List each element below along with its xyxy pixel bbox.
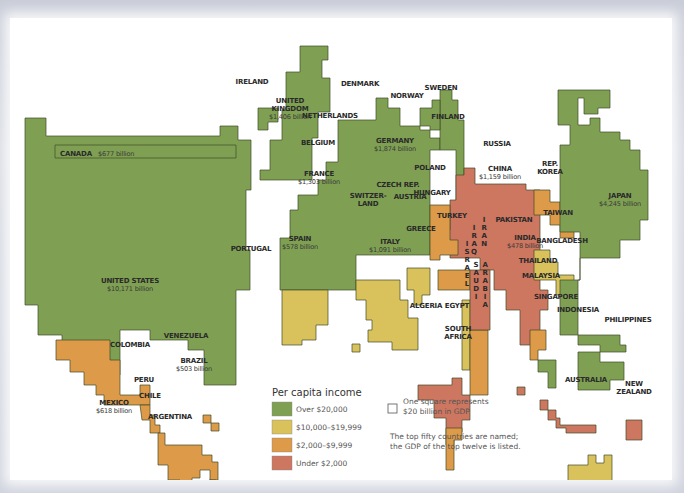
- country-label-iran-letter: A: [481, 232, 487, 240]
- region-italy-island[interactable]: [352, 344, 360, 352]
- country-label-belgium: BELGIUM: [301, 139, 335, 147]
- legend-title: Per capita income: [272, 387, 362, 398]
- country-label-finland: FINLAND: [431, 113, 465, 121]
- legend: Per capita income Over $20,000$10,000–$1…: [272, 387, 521, 470]
- legend-label-high: Over $20,000: [296, 405, 348, 414]
- legend-label-low: Under $2,000: [296, 459, 348, 468]
- country-label-switzerland: SWITZER-: [350, 192, 387, 200]
- country-label-iraq-letter: A: [471, 240, 477, 248]
- region-iberia[interactable]: [282, 290, 328, 345]
- gdp-label-china: $1,159 billion: [479, 173, 521, 181]
- country-label-israel-letter: E: [465, 272, 470, 280]
- gdp-label-spain: $578 billion: [282, 243, 318, 251]
- country-label-russia: RUSSIA: [483, 140, 511, 148]
- country-label-malaysia: MALAYSIA: [522, 272, 561, 280]
- region-south-america[interactable]: [158, 433, 218, 480]
- gdp-label-italy: $1,091 billion: [369, 246, 411, 254]
- cartogram-map: CANADA$677 billionUNITED STATES$10,171 b…: [10, 18, 672, 480]
- country-label-thailand: THAILAND: [519, 257, 558, 265]
- country-label-france: FRANCE: [304, 170, 335, 178]
- country-label-united-states: UNITED STATES: [101, 277, 159, 285]
- footnote-line1: The top fifty countries are named;: [389, 432, 518, 441]
- country-label-italy: ITALY: [380, 238, 401, 246]
- country-label-new-zealand: NEW: [625, 380, 643, 388]
- map-page: CANADA$677 billionUNITED STATES$10,171 b…: [10, 18, 672, 480]
- country-label-china: CHINA: [488, 165, 513, 173]
- country-label-denmark: DENMARK: [341, 80, 380, 88]
- country-label-poland: POLAND: [414, 164, 446, 172]
- region-greece[interactable]: [407, 268, 430, 305]
- gdp-label-france: $1,303 billion: [298, 178, 340, 186]
- legend-swatch-high: [272, 402, 292, 416]
- region-australia[interactable]: [568, 455, 612, 480]
- country-label-saudi-arabia-letter: R: [482, 269, 488, 277]
- country-label-netherlands: NETHERLANDS: [302, 112, 358, 120]
- footnote-line2: the GDP of the top twelve is listed.: [390, 442, 521, 451]
- gdp-label-mexico: $618 billion: [96, 407, 132, 415]
- region-singapore[interactable]: [538, 360, 556, 388]
- region-italy[interactable]: [356, 280, 418, 350]
- country-label-venezuela: VENEZUELA: [164, 332, 209, 340]
- country-label-saudi-arabia-letter: A: [482, 277, 488, 285]
- region-saudi-arabia[interactable]: [470, 330, 488, 395]
- region-mexico[interactable]: [56, 340, 150, 405]
- country-label-pakistan: PAKISTAN: [496, 216, 533, 224]
- country-label-mexico: MEXICO: [99, 399, 129, 407]
- legend-swatch-low: [272, 456, 292, 470]
- region-philippines[interactable]: [626, 420, 642, 440]
- country-label-argentina: ARGENTINA: [148, 413, 193, 421]
- gdp-label-japan: $4,245 billion: [599, 200, 641, 208]
- country-label-united-kingdom: UNITED: [276, 97, 305, 105]
- country-label-south-africa: AFRICA: [444, 333, 472, 341]
- country-label-turkey: TURKEY: [437, 212, 468, 220]
- country-label-philippines: PHILIPPINES: [604, 316, 651, 324]
- country-label-israel-letter: A: [464, 264, 470, 272]
- country-label-iraq-letter: R: [471, 232, 477, 240]
- country-label-germany: GERMANY: [376, 137, 415, 145]
- country-label-sweden: SWEDEN: [425, 84, 458, 92]
- country-label-indonesia: INDONESIA: [557, 306, 600, 314]
- region-new-guinea-green[interactable]: [578, 352, 624, 390]
- country-label-saudi-arabia-letter: A: [482, 301, 488, 309]
- country-label-taiwan: TAIWAN: [543, 209, 573, 217]
- country-label-czech-rep: CZECH REP.: [376, 181, 419, 189]
- country-label-iran-letter: I: [483, 216, 485, 224]
- country-label-saudi-arabia-letter: I: [475, 293, 477, 301]
- region-island-sa-1[interactable]: [203, 415, 211, 423]
- country-label-algeria: ALGERIA: [410, 302, 443, 310]
- country-label-iran-letter: N: [481, 240, 487, 248]
- region-indonesia[interactable]: [540, 400, 596, 433]
- country-label-israel-letter: L: [465, 280, 470, 288]
- region-island-sa-2[interactable]: [211, 423, 219, 431]
- region-thailand-malaysia[interactable]: [530, 330, 546, 360]
- country-label-israel-letter: S: [465, 248, 470, 256]
- country-label-australia: AUSTRALIA: [565, 376, 608, 384]
- legend-swatch-uppermid: [272, 420, 292, 434]
- country-label-portugal: PORTUGAL: [231, 245, 272, 253]
- country-label-bangladesh: BANGLADESH: [536, 237, 588, 245]
- country-label-egypt: EGYPT: [445, 302, 470, 310]
- legend-label-uppermid: $10,000–$19,999: [296, 423, 362, 432]
- legend-swatch-lowermid: [272, 438, 292, 452]
- country-label-saudi-arabia-letter: D: [473, 285, 479, 293]
- country-label-saudi-arabia-letter: B: [482, 285, 487, 293]
- country-label-saudi-arabia-letter: U: [473, 277, 479, 285]
- country-label-japan: JAPAN: [608, 192, 632, 200]
- country-label-chile: CHILE: [139, 392, 161, 400]
- gdp-label-germany: $1,874 billion: [374, 145, 416, 153]
- country-label-hungary: HUNGARY: [413, 189, 451, 197]
- country-label-israel-letter: I: [466, 240, 468, 248]
- scale-square-icon: [388, 404, 397, 413]
- country-label-canada: CANADA: [60, 150, 93, 158]
- scale-note-line1: One square represents: [403, 397, 489, 406]
- region-australia-green-north[interactable]: [578, 335, 626, 352]
- country-label-brazil: BRAZIL: [180, 357, 208, 365]
- gdp-label-united-states: $10,171 billion: [107, 285, 153, 293]
- gdp-label-canada: $677 billion: [98, 150, 134, 158]
- country-label-saudi-arabia-letter: A: [473, 269, 479, 277]
- country-label-peru: PERU: [134, 376, 155, 384]
- region-island-sea[interactable]: [517, 387, 525, 395]
- country-label-singapore: SINGAPORE: [534, 293, 579, 301]
- scale-note-line2: $20 billion in GDP: [403, 407, 470, 416]
- country-label-colombia: COLOMBIA: [110, 341, 151, 349]
